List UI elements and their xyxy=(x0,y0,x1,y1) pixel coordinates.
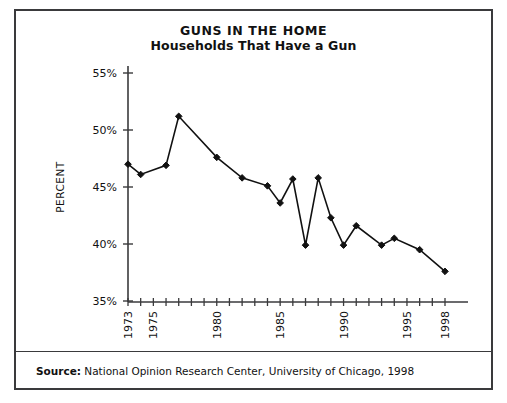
svg-text:1973: 1973 xyxy=(122,311,135,339)
svg-text:1990: 1990 xyxy=(338,311,351,339)
y-axis-title: PERCENT xyxy=(54,161,66,213)
svg-text:45%: 45% xyxy=(93,181,117,194)
data-line xyxy=(128,116,445,271)
source-note: Source: National Opinion Research Center… xyxy=(36,365,414,377)
svg-text:1975: 1975 xyxy=(147,311,160,339)
source-label: Source: xyxy=(36,365,81,377)
axes xyxy=(128,66,468,302)
svg-text:40%: 40% xyxy=(93,238,117,251)
source-text: National Opinion Research Center, Univer… xyxy=(84,365,414,377)
svg-text:55%: 55% xyxy=(93,67,117,80)
svg-text:1980: 1980 xyxy=(211,311,224,339)
line-chart: 55%50%45%40%35% 197319751980198519901995… xyxy=(16,11,495,392)
source-separator xyxy=(16,351,491,352)
svg-text:50%: 50% xyxy=(93,124,117,137)
svg-text:35%: 35% xyxy=(93,295,117,308)
y-axis-tick-labels: 55%50%45%40%35% xyxy=(93,67,117,308)
chart-panel: GUNS IN THE HOME Households That Have a … xyxy=(14,9,493,390)
x-axis-tick-labels: 1973197519801985199019951998 xyxy=(122,311,452,339)
svg-text:PERCENT: PERCENT xyxy=(54,161,66,213)
svg-text:1985: 1985 xyxy=(274,311,287,339)
plot-area: 55%50%45%40%35% 197319751980198519901995… xyxy=(16,11,495,392)
svg-text:1998: 1998 xyxy=(439,311,452,339)
svg-text:1995: 1995 xyxy=(401,311,414,339)
